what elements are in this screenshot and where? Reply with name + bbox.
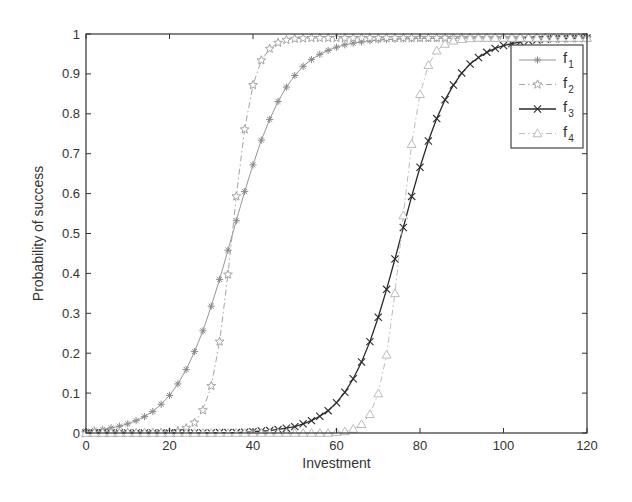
y-tick-label: 0.6 <box>62 186 80 201</box>
data-point <box>383 286 390 293</box>
data-point <box>341 389 348 396</box>
data-point <box>374 389 383 397</box>
data-point <box>424 61 433 69</box>
data-point <box>407 140 416 148</box>
data-point <box>315 33 324 41</box>
data-point <box>358 358 365 365</box>
data-point <box>158 401 165 408</box>
data-point <box>349 425 358 433</box>
legend-marker-icon <box>534 56 541 63</box>
data-point <box>416 164 423 171</box>
data-point <box>299 34 308 42</box>
data-point <box>133 417 140 424</box>
x-tick-label: 100 <box>493 438 515 453</box>
data-point <box>350 375 357 382</box>
y-tick-label: 0.1 <box>62 386 80 401</box>
data-point <box>224 270 233 278</box>
y-tick-label: 0 <box>73 426 80 441</box>
x-tick-label: 60 <box>329 438 343 453</box>
data-point <box>249 80 258 88</box>
data-point <box>190 418 199 426</box>
y-tick-label: 1 <box>73 27 80 42</box>
x-tick-label: 20 <box>162 438 176 453</box>
data-point <box>199 406 208 414</box>
data-point <box>382 350 391 358</box>
y-tick-label: 0.8 <box>62 106 80 121</box>
data-point <box>341 41 348 48</box>
data-point <box>307 33 316 41</box>
data-point <box>207 381 216 389</box>
data-point <box>483 49 490 56</box>
data-point <box>124 420 131 427</box>
data-point <box>333 44 340 51</box>
data-point <box>366 410 375 418</box>
data-point <box>240 125 249 133</box>
data-point <box>432 46 441 54</box>
data-point <box>258 137 265 144</box>
x-axis-label: Investment <box>302 455 371 471</box>
data-point <box>290 34 299 42</box>
data-point <box>241 188 248 195</box>
data-point <box>232 192 241 200</box>
data-point <box>407 33 416 41</box>
line-chart: 02040608010012000.10.20.30.40.50.60.70.8… <box>0 0 632 502</box>
y-tick-label: 0.7 <box>62 146 80 161</box>
y-axis-label: Probability of success <box>30 166 46 301</box>
data-point <box>441 40 450 48</box>
data-point <box>215 337 224 345</box>
y-tick-label: 0.5 <box>62 226 80 241</box>
data-point <box>257 56 266 64</box>
data-point <box>266 116 273 123</box>
data-point <box>375 314 382 321</box>
data-point <box>308 56 315 63</box>
data-point <box>274 98 281 105</box>
data-point <box>141 413 148 420</box>
data-point <box>391 289 400 297</box>
data-point <box>399 33 408 41</box>
y-tick-label: 0.2 <box>62 346 80 361</box>
data-point <box>166 392 173 399</box>
data-point <box>249 161 256 168</box>
data-point <box>300 420 307 427</box>
x-tick-label: 80 <box>413 438 427 453</box>
data-point <box>308 417 315 424</box>
data-point <box>340 33 349 41</box>
data-point <box>191 348 198 355</box>
data-point <box>282 35 291 43</box>
data-point <box>408 193 415 200</box>
data-point <box>325 47 332 54</box>
data-point <box>458 70 465 77</box>
data-point <box>325 407 332 414</box>
y-tick-label: 0.9 <box>62 66 80 81</box>
data-point <box>333 399 340 406</box>
data-point <box>283 83 290 90</box>
data-point <box>424 33 433 41</box>
data-point <box>432 33 441 41</box>
data-point <box>357 33 366 41</box>
data-point <box>265 44 274 52</box>
data-point <box>300 63 307 70</box>
data-point <box>316 51 323 58</box>
y-tick-label: 0.4 <box>62 266 80 281</box>
data-point <box>208 303 215 310</box>
data-point <box>425 137 432 144</box>
data-point <box>433 115 440 122</box>
y-tick-label: 0.3 <box>62 306 80 321</box>
data-point <box>149 408 156 415</box>
x-tick-label: 0 <box>82 438 89 453</box>
data-point <box>382 33 391 41</box>
data-point <box>467 60 474 67</box>
legend: f1f2f3f4 <box>511 45 583 148</box>
data-point <box>391 33 400 41</box>
data-point <box>349 33 358 41</box>
data-point <box>183 366 190 373</box>
data-point <box>316 413 323 420</box>
data-point <box>416 90 425 98</box>
data-point <box>366 338 373 345</box>
data-point <box>492 45 499 52</box>
data-point <box>475 54 482 61</box>
data-point <box>441 96 448 103</box>
x-tick-label: 40 <box>246 438 260 453</box>
data-point <box>324 33 333 41</box>
data-point <box>199 327 206 334</box>
